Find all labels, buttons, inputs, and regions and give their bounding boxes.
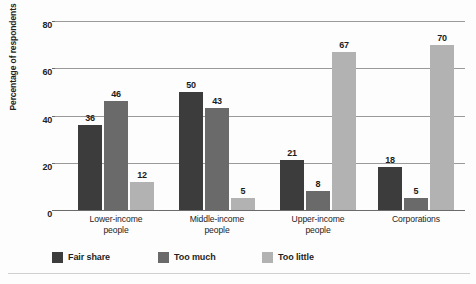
- bar-too-little-group-2: 5: [231, 198, 255, 210]
- bar-value-label: 5: [241, 187, 246, 196]
- bar-fair-share-group-1: 36: [78, 125, 102, 210]
- bar-too-much-group-3: 8: [306, 191, 330, 210]
- bar-too-much-group-1: 46: [104, 101, 128, 210]
- y-tick-80: 80: [22, 21, 52, 22]
- plot-area: 364612504352186718570: [55, 21, 465, 210]
- bottom-divider: [8, 273, 470, 274]
- category-label-line-2: people: [163, 225, 271, 236]
- bar-value-label: 43: [212, 97, 222, 106]
- legend-label-too-much: Too much: [174, 252, 216, 262]
- category-label-corporations: Corporations: [362, 214, 470, 225]
- legend-item-too-much[interactable]: Too much: [158, 250, 216, 264]
- bar-value-label: 21: [287, 149, 297, 158]
- bar-fair-share-group-2: 50: [179, 92, 203, 210]
- y-tick-60: 60: [22, 68, 52, 69]
- y-tick-label-80: 80: [26, 21, 52, 30]
- bar-too-much-group-4: 5: [404, 198, 428, 210]
- x-axis-line: [55, 210, 465, 211]
- y-tick-label-60: 60: [26, 68, 52, 77]
- gridline-80: [55, 21, 465, 22]
- bar-value-label: 50: [186, 81, 196, 90]
- bar-chart-figure: Percentage of respondents 0 20 40 60 80 …: [0, 0, 476, 284]
- category-label-line-1: Middle-income: [163, 214, 271, 225]
- y-axis-title: Percentage of respondents: [8, 0, 18, 132]
- y-tick-label-40: 40: [26, 116, 52, 125]
- category-label-line-1: Upper-income: [264, 214, 372, 225]
- bar-value-label: 12: [137, 171, 147, 180]
- bar-value-label: 18: [385, 156, 395, 165]
- y-tick-label-20: 20: [26, 163, 52, 172]
- bar-value-label: 8: [316, 180, 321, 189]
- bar-fair-share-group-4: 18: [378, 167, 402, 210]
- legend-swatch-too-much: [158, 252, 169, 263]
- y-tick-40: 40: [22, 116, 52, 117]
- bar-value-label: 46: [111, 90, 121, 99]
- legend-swatch-fair-share: [52, 252, 63, 263]
- category-label-lower-income: Lower-income people: [62, 214, 170, 236]
- category-label-middle-income: Middle-income people: [163, 214, 271, 236]
- legend-swatch-too-little: [262, 252, 273, 263]
- bar-value-label: 36: [85, 114, 95, 123]
- category-label-line-2: people: [62, 225, 170, 236]
- bar-too-little-group-3: 67: [332, 52, 356, 210]
- category-label-upper-income: Upper-income people: [264, 214, 372, 236]
- gridline-60: [55, 68, 465, 69]
- bar-too-little-group-4: 70: [430, 45, 454, 210]
- legend-item-fair-share[interactable]: Fair share: [52, 250, 110, 264]
- chart-legend: Fair share Too much Too little: [0, 250, 476, 266]
- category-label-line-2: people: [264, 225, 372, 236]
- legend-label-too-little: Too little: [278, 252, 314, 262]
- legend-item-too-little[interactable]: Too little: [262, 250, 314, 264]
- y-tick-label-0: 0: [26, 210, 52, 219]
- bar-too-little-group-1: 12: [130, 182, 154, 210]
- bar-value-label: 67: [339, 41, 349, 50]
- bar-too-much-group-2: 43: [205, 108, 229, 210]
- bar-value-label: 70: [437, 34, 447, 43]
- category-label-line-1: Corporations: [362, 214, 470, 225]
- bar-fair-share-group-3: 21: [280, 160, 304, 210]
- y-tick-20: 20: [22, 163, 52, 164]
- legend-label-fair-share: Fair share: [68, 252, 110, 262]
- bar-value-label: 5: [414, 187, 419, 196]
- y-tick-0: 0: [22, 210, 52, 211]
- category-label-line-1: Lower-income: [62, 214, 170, 225]
